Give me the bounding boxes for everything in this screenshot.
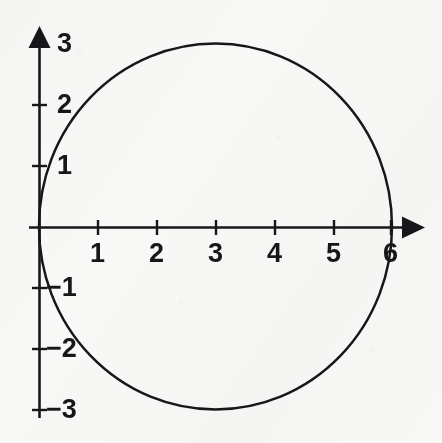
x-axis [29,217,425,239]
y-tick-label-neg-2: −2 [46,335,77,362]
x-tick-label-3: 3 [208,240,223,267]
x-tick-label-4: 4 [267,240,282,267]
plot-canvas [0,0,442,443]
y-tick-label-neg-3: −3 [46,396,77,423]
y-tick-label-neg-1: −1 [46,274,77,301]
x-axis-arrowhead-icon [402,217,425,239]
y-tick-label-2: 2 [57,91,72,118]
x-tick-label-1: 1 [90,240,105,267]
y-tick-label-3: 3 [57,30,72,57]
x-tick-label-2: 2 [149,240,164,267]
y-tick-label-1: 1 [57,152,72,179]
x-tick-label-5: 5 [326,240,341,267]
circle-plot-figure: 1 2 3 4 5 6 3 2 1 −1 −2 −3 [0,0,442,443]
x-tick-label-6: 6 [383,240,398,267]
